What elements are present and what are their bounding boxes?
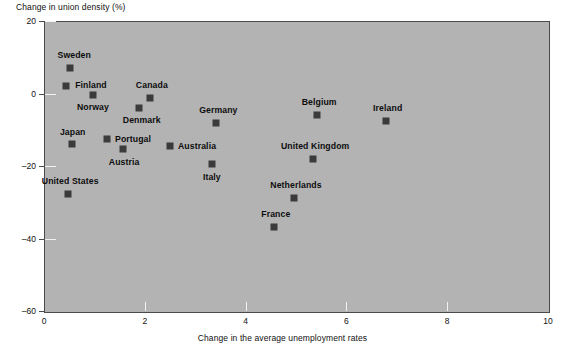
- data-point-marker: [314, 112, 321, 119]
- data-point-marker: [167, 142, 174, 149]
- data-point-marker: [270, 223, 277, 230]
- data-point-marker: [310, 156, 317, 163]
- data-point-marker: [68, 140, 75, 147]
- data-point-label: Finland: [75, 80, 107, 90]
- data-point-marker: [63, 83, 70, 90]
- y-tick-mark: [39, 311, 44, 312]
- plot-area: [44, 21, 550, 313]
- y-tick-mark: [39, 94, 44, 95]
- x-tick-mark-inner: [346, 302, 347, 311]
- data-point-label: United Kingdom: [281, 141, 349, 151]
- data-point-label: Austria: [109, 157, 140, 167]
- x-tick-label: 2: [130, 316, 160, 326]
- data-point-label: Germany: [199, 105, 237, 115]
- y-tick-mark: [39, 21, 44, 22]
- data-point-label: Canada: [136, 80, 168, 90]
- data-point-marker: [67, 65, 74, 72]
- x-axis-title: Change in the average unemployment rates: [0, 333, 565, 343]
- x-tick-label: 10: [533, 316, 563, 326]
- y-tick-mark: [39, 166, 44, 167]
- data-point-label: Ireland: [373, 103, 402, 113]
- x-tick-label: 8: [432, 316, 462, 326]
- y-tick-label: 0: [6, 89, 36, 99]
- y-tick-label: 20: [6, 16, 36, 26]
- data-point-marker: [120, 145, 127, 152]
- y-tick-label: –60: [6, 306, 36, 316]
- data-point-marker: [146, 94, 153, 101]
- data-point-marker: [135, 105, 142, 112]
- data-point-marker: [208, 160, 215, 167]
- x-tick-label: 0: [29, 316, 59, 326]
- data-point-marker: [104, 135, 111, 142]
- data-point-label: Portugal: [115, 134, 151, 144]
- data-point-label: France: [261, 209, 290, 219]
- data-point-label: Sweden: [57, 50, 90, 60]
- x-tick-mark-inner: [246, 302, 247, 311]
- data-point-marker: [290, 194, 297, 201]
- data-point-label: Denmark: [123, 115, 161, 125]
- y-tick-mark-inner: [45, 166, 56, 167]
- x-tick-mark-inner: [447, 302, 448, 311]
- data-point-label: Netherlands: [270, 180, 321, 190]
- scatter-chart-figure: Change in union density (%) 200–20–40–60…: [0, 0, 565, 352]
- data-point-label: Belgium: [302, 97, 337, 107]
- y-axis-title: Change in union density (%): [16, 2, 126, 12]
- y-tick-mark: [39, 239, 44, 240]
- x-tick-label: 6: [331, 316, 361, 326]
- x-tick-label: 4: [231, 316, 261, 326]
- data-point-label: United States: [42, 176, 99, 186]
- y-tick-label: –20: [6, 161, 36, 171]
- y-tick-mark-inner: [45, 94, 56, 95]
- data-point-marker: [65, 190, 72, 197]
- y-tick-mark-inner: [45, 21, 56, 22]
- data-point-label: Australia: [178, 141, 216, 151]
- data-point-marker: [89, 92, 96, 99]
- data-point-marker: [382, 117, 389, 124]
- data-point-label: Norway: [77, 102, 109, 112]
- y-tick-mark-inner: [45, 239, 56, 240]
- data-point-label: Italy: [203, 172, 221, 182]
- data-point-marker: [213, 119, 220, 126]
- y-tick-label: –40: [6, 234, 36, 244]
- data-point-label: Japan: [60, 127, 86, 137]
- x-tick-mark-inner: [145, 302, 146, 311]
